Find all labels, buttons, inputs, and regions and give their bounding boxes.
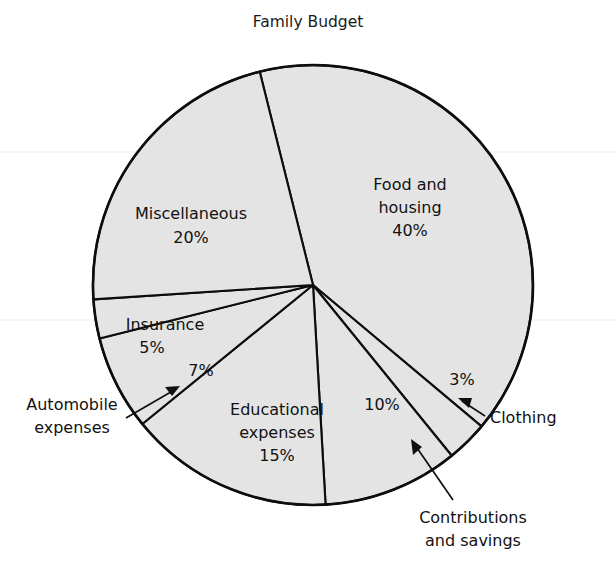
educational-percent: 15% [259,446,295,465]
insurance-line-1: Insurance [126,315,205,334]
food-housing-line-1: Food and [373,175,447,194]
miscellaneous-line-1: Miscellaneous [135,204,247,223]
pie-chart-figure: Family Budget Food and housing 40% [0,0,616,566]
educational-line-1: Educational [230,400,324,419]
chart-title: Family Budget [253,13,364,31]
automobile-percent: 7% [188,361,213,380]
contributions-percent: 10% [364,395,400,414]
automobile-label-line-1: Automobile [26,395,117,414]
chart-canvas: Family Budget Food and housing 40% [0,0,616,566]
automobile-label-line-2: expenses [34,418,110,437]
miscellaneous-percent: 20% [173,228,209,247]
food-housing-line-2: housing [378,198,441,217]
clothing-label: Clothing [490,408,557,427]
contributions-label-line-1: Contributions [419,508,527,527]
contributions-label-line-2: and savings [425,531,521,550]
clothing-percent: 3% [449,370,474,389]
food-housing-percent: 40% [392,221,428,240]
insurance-percent: 5% [139,338,164,357]
educational-line-2: expenses [239,423,315,442]
